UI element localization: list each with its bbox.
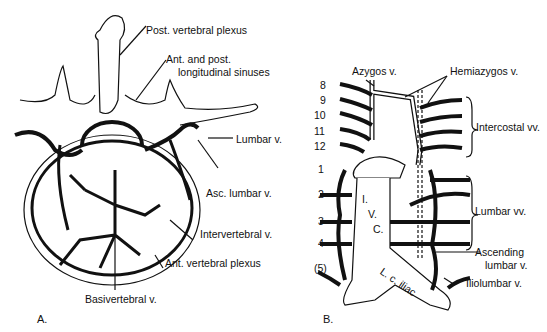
label-ivc-c: C. [373, 223, 384, 235]
rib-number-12: 12 [314, 140, 326, 152]
lumbar-number-5: (5) [314, 262, 327, 274]
label-longitudinal-sinuses-line1: Ant. and post. [166, 53, 231, 65]
label-iliolumbar-v: Iliolumbar v. [466, 277, 522, 289]
panel-b-letter: B. [323, 313, 333, 325]
label-hemiazygos-v: Hemiazygos v. [450, 65, 518, 77]
label-lumbar-v: Lumbar v. [236, 133, 282, 145]
label-intervertebral-v: Intervertebral v. [200, 228, 272, 240]
label-intercostal-vv: Intercostal vv. [476, 121, 540, 133]
lumbar-number-3: 3 [318, 215, 324, 227]
label-longitudinal-sinuses-line2: longitudinal sinuses [178, 66, 270, 78]
label-post-vertebral-plexus: Post. vertebral plexus [146, 24, 247, 36]
vertebra-illustration [0, 0, 547, 332]
label-ant-vertebral-plexus: Ant. vertebral plexus [165, 257, 261, 269]
label-ascending-line1: Ascending [475, 246, 524, 258]
lumbar-number-2: 2 [318, 188, 324, 200]
label-asc-lumbar-v: Asc. lumbar v. [206, 187, 272, 199]
label-basivertebral-v: Basivertebral v. [85, 293, 157, 305]
lumbar-number-1: 1 [318, 163, 324, 175]
rib-number-8: 8 [320, 79, 326, 91]
rib-number-11: 11 [314, 125, 325, 137]
lumbar-number-4: 4 [318, 237, 324, 249]
label-ivc-v: V. [368, 208, 377, 220]
rib-number-9: 9 [320, 94, 326, 106]
label-azygos-v: Azygos v. [352, 65, 397, 77]
label-ivc-i: I. [362, 193, 368, 205]
label-ascending-line2: lumbar v. [485, 259, 527, 271]
label-lumbar-vv: Lumbar vv. [475, 205, 526, 217]
panel-a-letter: A. [37, 313, 47, 325]
rib-number-10: 10 [314, 109, 326, 121]
